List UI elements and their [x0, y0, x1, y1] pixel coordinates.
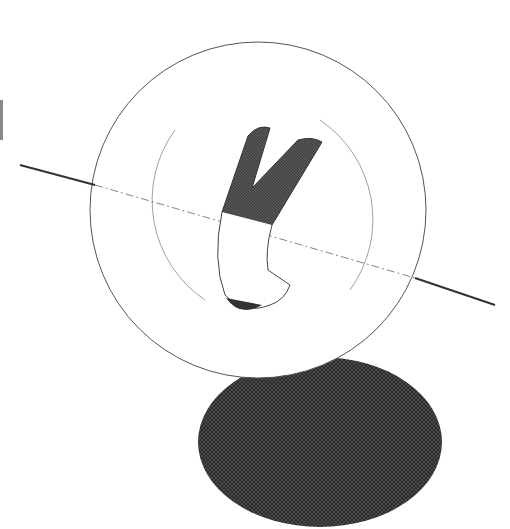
- grass-left: [20, 165, 95, 185]
- shadow-oval: [198, 357, 442, 527]
- edge-mark: [0, 100, 3, 140]
- illustration: [0, 0, 510, 529]
- grass-right: [415, 278, 495, 305]
